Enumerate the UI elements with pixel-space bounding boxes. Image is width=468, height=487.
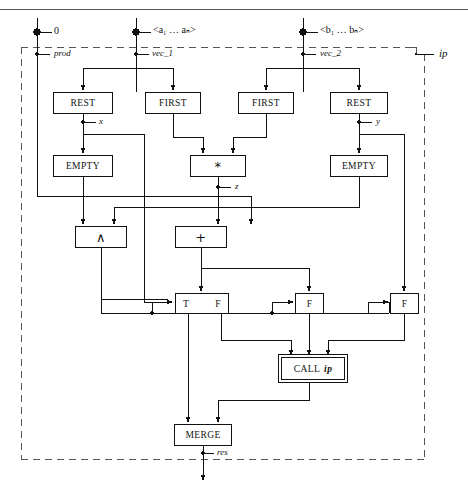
wire-label-z: z (235, 181, 239, 191)
input-label-vec2: <b₁ … bₙ> (320, 24, 364, 35)
node-label: FIRST (252, 98, 280, 108)
switch-tf[interactable]: T F (175, 293, 229, 314)
node-plus[interactable]: + (175, 226, 227, 248)
node-first-right[interactable]: FIRST (238, 92, 294, 114)
node-label: * (215, 160, 222, 173)
node-label: EMPTY (66, 161, 100, 171)
node-label: REST (347, 98, 372, 108)
region-label-ip: ip (439, 47, 448, 59)
node-multiply[interactable]: * (190, 155, 246, 177)
node-label: FIRST (159, 98, 187, 108)
node-rest-right[interactable]: REST (330, 92, 388, 114)
node-and[interactable]: ∧ (75, 226, 127, 248)
node-label: ∧ (96, 231, 106, 244)
node-empty-left[interactable]: EMPTY (53, 155, 113, 177)
switch-false-port: F (307, 299, 313, 309)
node-call-ip[interactable]: CALL ip (281, 357, 345, 380)
switch-false-port: F (402, 299, 408, 309)
node-rest-left[interactable]: REST (53, 92, 113, 114)
call-target-name: ip (324, 364, 332, 374)
wire-label-vec2: vec_2 (320, 48, 341, 58)
wire-label-vec1: vec_1 (152, 48, 173, 58)
node-label: EMPTY (342, 161, 376, 171)
wire-label-res: res (217, 447, 228, 457)
node-label: REST (71, 98, 96, 108)
switch-true-port: T (183, 299, 189, 309)
wire-label-prod: prod (54, 48, 71, 58)
node-empty-right[interactable]: EMPTY (330, 155, 388, 177)
dataflow-diagram-canvas: 0 <a₁ … aₙ> <b₁ … bₙ> prod vec_1 vec_2 x… (0, 0, 468, 487)
node-first-left[interactable]: FIRST (145, 92, 201, 114)
call-keyword: CALL (294, 364, 320, 374)
node-label: MERGE (185, 430, 220, 440)
wire-label-x: x (99, 116, 103, 126)
wire-label-y: y (376, 116, 380, 126)
input-label-0: 0 (54, 25, 59, 36)
switch-false-port: F (215, 299, 221, 309)
switch-f2[interactable]: F (390, 293, 419, 314)
switch-f1[interactable]: F (295, 293, 324, 314)
node-label: + (195, 231, 206, 244)
node-merge[interactable]: MERGE (174, 424, 232, 446)
input-label-vec1: <a₁ … aₙ> (153, 24, 196, 35)
wire-layer (0, 0, 468, 487)
